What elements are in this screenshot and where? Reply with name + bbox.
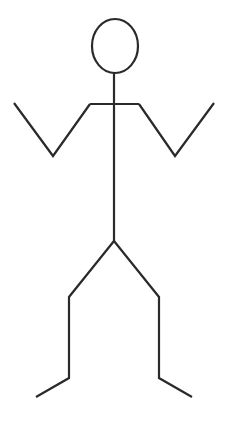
head: [92, 19, 138, 73]
stick-figure-drawing: [0, 0, 232, 425]
stick-figure-canvas: [0, 0, 232, 425]
right-leg: [114, 241, 192, 397]
right-arm: [139, 103, 214, 156]
left-arm: [14, 103, 90, 156]
left-leg: [36, 241, 114, 397]
